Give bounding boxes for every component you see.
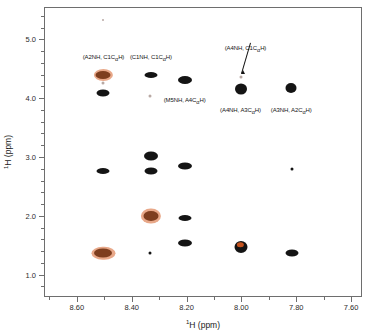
x-minor-tick	[49, 297, 50, 300]
x-tick	[296, 297, 297, 302]
y-axis-title: 1H (ppm)	[3, 135, 14, 169]
x-minor-tick	[104, 297, 105, 300]
x-tick-label: 8.60	[70, 303, 85, 312]
x-tick	[187, 297, 188, 302]
y-tick-label: 5.0	[18, 35, 36, 44]
nmr-spectrum-figure: (A2NH, C1CαH)(C1NH, C1CαH)(M5NH, A4CαH)(…	[0, 0, 372, 332]
x-axis-title: 1H (ppm)	[186, 319, 220, 330]
x-tick	[241, 297, 242, 302]
y-tick-label: 1.0	[18, 270, 36, 279]
x-tick-label: 8.40	[124, 303, 139, 312]
y-tick-label: 3.0	[18, 153, 36, 162]
x-minor-tick	[214, 297, 215, 300]
x-tick-label: 7.80	[289, 303, 304, 312]
x-tick	[351, 297, 352, 302]
x-tick-label: 8.00	[234, 303, 249, 312]
x-tick-label: 7.60	[344, 303, 359, 312]
y-tick-label: 4.0	[18, 94, 36, 103]
y-tick-label: 2.0	[18, 211, 36, 220]
x-tick-label: 8.20	[179, 303, 194, 312]
x-minor-tick	[269, 297, 270, 300]
x-minor-tick	[324, 297, 325, 300]
x-minor-tick	[159, 297, 160, 300]
plot-frame	[44, 7, 362, 297]
x-tick	[132, 297, 133, 302]
x-tick	[77, 297, 78, 302]
